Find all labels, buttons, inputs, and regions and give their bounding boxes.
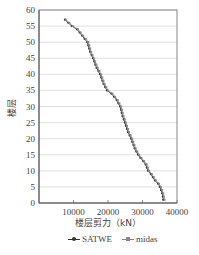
y-axis-label: 楼层: [6, 99, 17, 117]
y-tick-label: 55: [26, 21, 36, 31]
x-tick-label: 40000: [166, 207, 189, 217]
data-point: [121, 109, 123, 111]
axes: 0510152025303540455055601000020000300004…: [26, 5, 189, 217]
data-point: [123, 115, 125, 117]
data-point: [120, 106, 122, 108]
data-point: [138, 154, 140, 156]
data-point: [160, 186, 162, 188]
x-tick-label: 20000: [97, 207, 120, 217]
data-point: [135, 147, 137, 149]
data-point: [111, 93, 113, 95]
data-point: [133, 144, 135, 146]
legend-item-midas: midas: [122, 234, 158, 244]
data-point: [128, 131, 130, 133]
data-point: [131, 138, 133, 140]
data-point: [82, 35, 84, 37]
x-tick-label: 30000: [131, 207, 154, 217]
data-point: [132, 141, 134, 143]
data-point: [100, 73, 102, 75]
legend-label: SATWE: [82, 234, 112, 244]
data-point: [125, 122, 127, 124]
data-point: [163, 196, 165, 198]
data-point: [117, 99, 119, 101]
data-point: [118, 102, 120, 104]
data-point: [98, 70, 100, 72]
data-point: [124, 118, 126, 120]
data-point: [94, 60, 96, 62]
data-point: [104, 83, 106, 85]
y-tick-label: 60: [26, 5, 36, 15]
data-point: [127, 128, 129, 130]
data-point: [65, 19, 67, 21]
y-tick-label: 40: [26, 69, 36, 79]
data-point: [101, 77, 103, 79]
data-point: [153, 176, 155, 178]
data-point: [91, 54, 93, 56]
y-tick-label: 35: [26, 85, 36, 95]
legend-label: midas: [136, 234, 158, 244]
data-point: [140, 157, 142, 159]
data-point: [93, 57, 95, 59]
y-tick-label: 10: [26, 166, 36, 176]
line-marker-icon: [68, 236, 80, 243]
legend: SATWE midas: [68, 234, 158, 244]
data-point: [89, 48, 91, 50]
y-tick-label: 15: [26, 150, 36, 160]
data-point: [88, 44, 90, 46]
data-point: [162, 192, 164, 194]
data-point: [97, 67, 99, 69]
data-point: [146, 163, 148, 165]
data-point: [114, 96, 116, 98]
data-point: [102, 80, 104, 82]
data-point: [77, 28, 79, 30]
line-marker-icon: [122, 236, 134, 243]
data-point: [95, 64, 97, 66]
data-point: [151, 173, 153, 175]
x-tick-label: 10000: [62, 207, 85, 217]
data-point: [164, 199, 166, 201]
y-tick-label: 5: [31, 182, 36, 192]
data-point: [143, 160, 145, 162]
data-point: [90, 51, 92, 53]
y-tick-label: 30: [26, 102, 36, 112]
series-line-satwe: [65, 20, 163, 200]
data-point: [80, 32, 82, 34]
y-tick-label: 45: [26, 53, 36, 63]
data-point: [136, 151, 138, 153]
data-point: [161, 189, 163, 191]
data-point: [68, 22, 70, 24]
data-point: [158, 183, 160, 185]
data-point: [130, 134, 132, 136]
data-point: [148, 170, 150, 172]
data-point: [105, 86, 107, 88]
legend-item-satwe: SATWE: [68, 234, 112, 244]
y-tick-label: 25: [26, 118, 36, 128]
y-tick-label: 20: [26, 134, 36, 144]
data-point: [155, 179, 157, 181]
series: [64, 19, 166, 201]
data-point: [126, 125, 128, 127]
y-tick-label: 50: [26, 37, 36, 47]
data-point: [72, 25, 74, 27]
gridlines: [39, 10, 177, 187]
data-point: [85, 38, 87, 40]
data-point: [87, 41, 89, 43]
data-point: [122, 112, 124, 114]
y-tick-label: 0: [31, 198, 36, 208]
chart-svg: 0510152025303540455055601000020000300004…: [0, 0, 199, 255]
data-point: [147, 167, 149, 169]
x-axis-label: 楼层剪力（kN）: [75, 217, 141, 228]
data-point: [107, 89, 109, 91]
